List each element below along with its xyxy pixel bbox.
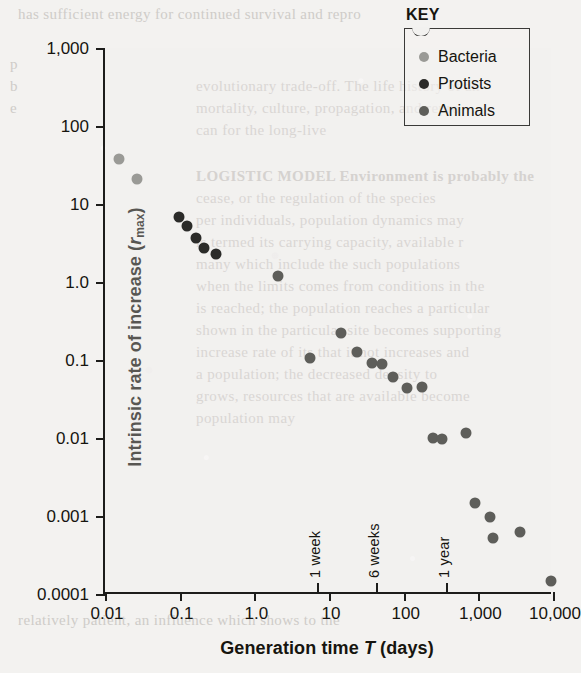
y-axis-tick: 10 xyxy=(96,204,105,206)
x-axis-title: Generation time T (days) xyxy=(103,638,551,659)
x-axis-tick: 0.1 xyxy=(180,592,182,601)
x-axis-tick-label: 1,000 xyxy=(459,604,502,624)
data-point-bacteria xyxy=(131,173,142,184)
y-axis-tick: 0.1 xyxy=(96,360,105,362)
y-axis-tick: 1,000 xyxy=(96,48,105,50)
x-axis-title-pre: Generation time xyxy=(220,638,364,658)
x-axis-tick: 100 xyxy=(404,592,406,601)
legend-item-animals: Animals xyxy=(419,103,495,119)
x-axis-tick-label: 10 xyxy=(322,604,341,624)
plot-area: 0.00010.0010.010.11.0101001,000 0.010.11… xyxy=(103,48,551,594)
y-axis-tick-label: 0.001 xyxy=(46,507,89,527)
legend-swatch-animals xyxy=(419,106,429,116)
x-axis-tick-label: 0.01 xyxy=(90,604,123,624)
data-point-animals xyxy=(437,433,448,444)
reference-label: 1 week xyxy=(307,531,323,578)
reference-tick xyxy=(446,583,448,592)
x-axis-title-post: (days) xyxy=(375,638,434,658)
y-axis-tick: 0.0001 xyxy=(96,594,105,596)
x-axis-tick: 1.0 xyxy=(254,592,256,601)
legend-label: Bacteria xyxy=(438,49,497,65)
y-axis-tick-label: 10 xyxy=(70,195,89,215)
data-point-protists xyxy=(211,248,222,259)
legend-item-protists: Protists xyxy=(419,76,491,92)
legend-item-bacteria: Bacteria xyxy=(419,49,497,65)
data-point-animals xyxy=(388,372,399,383)
data-point-animals xyxy=(545,576,556,587)
legend-swatch-protists xyxy=(419,79,429,89)
x-axis-tick-label: 0.1 xyxy=(170,604,194,624)
legend-notch xyxy=(412,27,430,36)
y-axis-tick-label: 1,000 xyxy=(46,39,89,59)
legend-box: BacteriaProtistsAnimals xyxy=(404,28,530,126)
y-axis-tick: 1.0 xyxy=(96,282,105,284)
y-axis-tick-label: 100 xyxy=(61,117,89,137)
x-axis-tick-label: 10,000 xyxy=(529,604,581,624)
legend-swatch-bacteria xyxy=(419,52,429,62)
data-point-animals xyxy=(487,533,498,544)
y-axis-tick-label: 1.0 xyxy=(65,273,89,293)
x-axis-tick: 0.01 xyxy=(105,592,107,601)
data-point-animals xyxy=(469,498,480,509)
data-point-animals xyxy=(352,347,363,358)
data-point-protists xyxy=(181,221,192,232)
legend-label: Animals xyxy=(438,103,495,119)
data-point-protists xyxy=(190,232,201,243)
data-point-animals xyxy=(273,270,284,281)
y-axis-tick: 0.01 xyxy=(96,438,105,440)
data-point-animals xyxy=(514,527,525,538)
legend-label: Protists xyxy=(438,76,491,92)
data-point-animals xyxy=(485,511,496,522)
y-axis-tick: 0.001 xyxy=(96,516,105,518)
reference-label: 1 year xyxy=(436,537,452,579)
x-axis-tick: 1,000 xyxy=(478,592,480,601)
y-axis-tick: 100 xyxy=(96,126,105,128)
x-axis-tick: 10 xyxy=(329,592,331,601)
data-point-animals xyxy=(305,353,316,364)
x-axis-tick: 10,000 xyxy=(553,592,555,601)
legend-title: KEY xyxy=(406,6,440,24)
data-point-protists xyxy=(199,243,210,254)
data-point-animals xyxy=(401,382,412,393)
x-axis-tick-label: 1.0 xyxy=(245,604,269,624)
data-point-bacteria xyxy=(114,153,125,164)
x-axis-title-symbol: T xyxy=(364,638,375,658)
reference-tick xyxy=(317,583,319,592)
y-axis-tick-label: 0.1 xyxy=(65,351,89,371)
data-point-animals xyxy=(377,359,388,370)
data-point-animals xyxy=(416,382,427,393)
reference-label: 6 weeks xyxy=(366,523,382,578)
x-axis-tick-label: 100 xyxy=(391,604,419,624)
reference-tick xyxy=(376,583,378,592)
data-point-animals xyxy=(336,327,347,338)
data-point-animals xyxy=(460,428,471,439)
y-axis-tick-label: 0.0001 xyxy=(37,585,89,605)
y-axis-tick-label: 0.01 xyxy=(56,429,89,449)
